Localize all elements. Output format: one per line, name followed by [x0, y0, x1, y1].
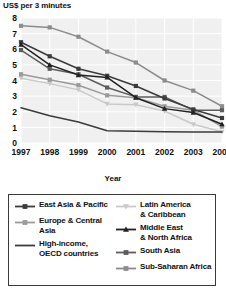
data-point-marker [48, 54, 52, 58]
data-point-marker [220, 116, 224, 120]
data-point-marker [105, 49, 109, 53]
data-point-marker [48, 25, 52, 29]
data-point-marker [162, 78, 166, 82]
y-tick-label: 7 [12, 29, 17, 39]
legend-marker-square-icon [115, 247, 137, 258]
legend-item[interactable]: Latin America & Caribbean [115, 200, 213, 219]
legend-item-label: South Asia [140, 246, 180, 256]
line-chart-svg: 0123456781997199819992000200120022003200… [0, 12, 226, 160]
data-point-marker [76, 35, 80, 39]
plot-area: 0123456781997199819992000200120022003200… [0, 12, 226, 160]
data-point-marker [19, 72, 23, 76]
data-point-marker [105, 93, 109, 97]
x-tick-label: 2002 [155, 147, 174, 157]
data-point-marker [134, 84, 138, 88]
data-point-marker [134, 60, 138, 64]
data-point-marker [76, 83, 80, 87]
data-point-marker [48, 78, 52, 82]
legend-marker-none-icon [14, 240, 36, 251]
legend-item[interactable]: Middle East & North Africa [115, 223, 213, 242]
y-tick-label: 1 [12, 123, 17, 133]
legend-item[interactable]: High-income, OECD countries [14, 239, 114, 258]
data-point-marker [191, 89, 195, 93]
data-point-marker [220, 108, 224, 112]
legend-column-right: Latin America & CaribbeanMiddle East & N… [115, 200, 213, 278]
y-tick-label: 6 [12, 44, 17, 54]
legend-item-label: Middle East & North Africa [140, 223, 192, 242]
x-tick-label: 1997 [12, 147, 31, 157]
data-point-marker [19, 24, 23, 28]
x-tick-label: 2003 [184, 147, 203, 157]
legend-item[interactable]: South Asia [115, 246, 213, 258]
y-tick-label: 3 [12, 91, 17, 101]
x-tick-label: 1999 [69, 147, 88, 157]
y-tick-label: 5 [12, 60, 17, 70]
x-tick-label: 2001 [126, 147, 145, 157]
legend: East Asia & PacificEurope & Central Asia… [8, 194, 216, 286]
y-axis-title: US$ per 3 minutes [3, 1, 71, 10]
legend-item[interactable]: East Asia & Pacific [14, 200, 114, 212]
legend-item[interactable]: Sub-Saharan Africa [115, 262, 213, 274]
legend-marker-triangle-down-icon [115, 201, 137, 212]
legend-marker-triangle-up-icon [115, 224, 137, 235]
legend-column-left: East Asia & PacificEurope & Central Asia… [14, 200, 114, 262]
data-point-marker [105, 85, 109, 89]
legend-item-label: East Asia & Pacific [39, 200, 108, 210]
data-point-marker [48, 67, 52, 71]
y-tick-label: 8 [12, 13, 17, 23]
legend-item-label: Europe & Central Asia [39, 216, 102, 235]
legend-marker-square-icon [115, 263, 137, 274]
x-tick-label: 2004 [213, 147, 226, 157]
data-point-marker [220, 104, 224, 108]
y-tick-label: 4 [12, 76, 17, 86]
data-point-marker [76, 67, 80, 71]
legend-marker-square-icon [14, 201, 36, 212]
data-point-marker [19, 48, 23, 52]
legend-item-label: High-income, OECD countries [39, 239, 98, 258]
legend-item[interactable]: Europe & Central Asia [14, 216, 114, 235]
legend-marker-square-icon [14, 217, 36, 228]
data-point-marker [162, 96, 166, 100]
legend-item-label: Latin America & Caribbean [140, 200, 191, 219]
chart-figure: US$ per 3 minutes 0123456781997199819992… [0, 0, 226, 295]
x-tick-label: 1998 [40, 147, 59, 157]
legend-item-label: Sub-Saharan Africa [140, 262, 211, 272]
y-tick-label: 2 [12, 107, 17, 117]
x-tick-label: 2000 [98, 147, 117, 157]
x-axis-title: Year [0, 174, 226, 183]
